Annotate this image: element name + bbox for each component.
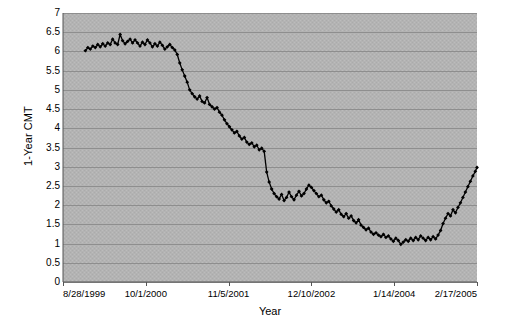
- x-tick-label: 11/5/2001: [208, 288, 250, 299]
- x-tick-label: 1/14/2004: [373, 288, 415, 299]
- chart-container: 76.565.554.543.532.521.510.50 8/28/19991…: [0, 0, 512, 330]
- y-tick-label: 7: [34, 8, 60, 18]
- chart-plot-area: [0, 0, 512, 330]
- y-tick-label: 3.5: [34, 143, 60, 153]
- y-tick-label: 0: [34, 277, 60, 287]
- y-tick-label: 2.5: [34, 181, 60, 191]
- x-tick-label: 10/1/2000: [125, 288, 167, 299]
- y-tick-label: 5: [34, 85, 60, 95]
- y-tick-label: 4.5: [34, 104, 60, 114]
- y-axis-tick-labels: 76.565.554.543.532.521.510.50: [32, 0, 60, 330]
- y-tick-label: 3: [34, 162, 60, 172]
- y-tick-label: 1.5: [34, 219, 60, 229]
- x-tick-label: 8/28/1999: [63, 288, 105, 299]
- y-tick-label: 5.5: [34, 66, 60, 76]
- x-tick-label: 2/17/2005: [435, 288, 477, 299]
- y-tick-label: 6: [34, 46, 60, 56]
- y-tick-label: 4: [34, 123, 60, 133]
- x-tick-label: 12/10/2002: [288, 288, 336, 299]
- y-tick-label: 2: [34, 200, 60, 210]
- y-tick-label: 0.5: [34, 258, 60, 268]
- y-axis-title: 1-Year CMT: [22, 66, 34, 206]
- y-tick-label: 1: [34, 239, 60, 249]
- plot-background: [63, 13, 477, 282]
- y-tick-label: 6.5: [34, 27, 60, 37]
- x-axis-title: Year: [63, 305, 477, 317]
